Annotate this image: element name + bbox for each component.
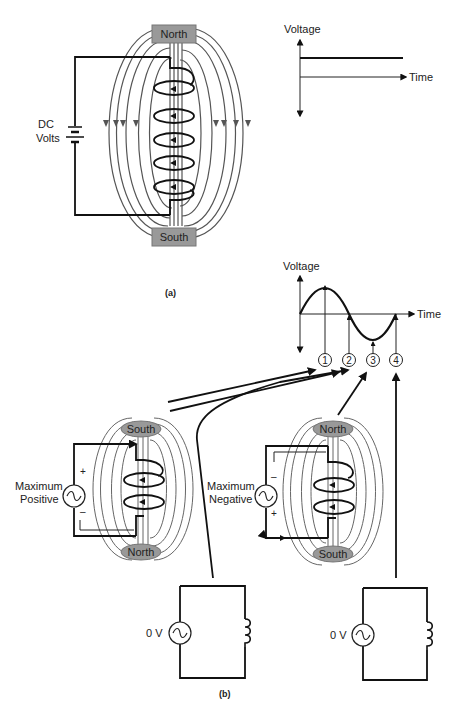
- volts-label: Volts: [36, 132, 60, 144]
- plus-sign-right: +: [271, 508, 277, 519]
- magnetic-field-lines-left: [109, 28, 172, 238]
- inductor-icon-right: [427, 622, 432, 650]
- marker-1: 1: [319, 354, 332, 367]
- zero-volt-circuit-left: 0 V: [146, 586, 250, 678]
- marker-3: 3: [367, 354, 380, 367]
- time-axis-label: Time: [409, 71, 433, 83]
- ac-source-icon-zero-left: [169, 622, 191, 644]
- dc-label: DC: [38, 118, 54, 130]
- time-axis-label-b: Time: [417, 308, 441, 320]
- svg-text:2: 2: [346, 355, 352, 366]
- electromagnet-diagram: North South DC Volts: [0, 0, 456, 709]
- negative-label: Negative: [209, 493, 252, 505]
- svg-text:North: North: [161, 28, 188, 40]
- north-pole-left: North: [121, 544, 161, 560]
- part-b-label: (b): [219, 689, 231, 699]
- svg-text:North: North: [128, 546, 155, 558]
- voltage-axis-label: Voltage: [284, 23, 321, 35]
- minus-sign-right: –: [271, 471, 277, 482]
- inductor-icon-left: [245, 619, 250, 647]
- minus-sign: –: [80, 506, 86, 517]
- part-a-label: (a): [165, 288, 176, 298]
- ac-source-icon-right: [255, 485, 277, 507]
- part-a-electromagnet: North South DC Volts: [36, 25, 251, 298]
- north-pole-right: North: [313, 421, 353, 437]
- plus-sign: +: [80, 466, 86, 477]
- svg-text:South: South: [160, 231, 189, 243]
- dc-voltage-graph: Voltage Time: [284, 23, 433, 116]
- ac-source-icon-left: [63, 485, 85, 507]
- south-pole-right: South: [313, 546, 353, 562]
- pointer-arrows: [168, 370, 396, 578]
- dc-battery-icon: [66, 127, 84, 142]
- positive-label: Positive: [20, 493, 59, 505]
- maximum-label: Maximum: [15, 480, 63, 492]
- marker-4: 4: [390, 354, 403, 367]
- svg-text:4: 4: [393, 355, 399, 366]
- left-electromagnet: South North + – Maximum Positive: [15, 418, 193, 560]
- maximum-label-right: Maximum: [207, 480, 255, 492]
- north-pole: North: [152, 25, 196, 43]
- svg-text:1: 1: [322, 355, 328, 366]
- marker-2: 2: [343, 354, 356, 367]
- magnetic-field-lines-right: [180, 28, 243, 238]
- voltage-axis-label-b: Voltage: [283, 260, 320, 272]
- svg-text:South: South: [127, 423, 156, 435]
- svg-text:North: North: [320, 423, 347, 435]
- ac-voltage-graph: Voltage Time 1 2 3 4: [283, 260, 441, 367]
- south-pole-left: South: [121, 421, 161, 437]
- south-pole: South: [152, 228, 196, 246]
- zero-volt-circuit-right: 0 V: [330, 588, 432, 680]
- svg-text:3: 3: [370, 355, 376, 366]
- svg-text:South: South: [319, 548, 348, 560]
- zero-volt-label-right: 0 V: [330, 629, 347, 641]
- zero-volt-label: 0 V: [146, 627, 163, 639]
- right-electromagnet: North South – + Maximum Negative: [207, 418, 383, 565]
- ac-source-icon-zero-right: [352, 624, 374, 646]
